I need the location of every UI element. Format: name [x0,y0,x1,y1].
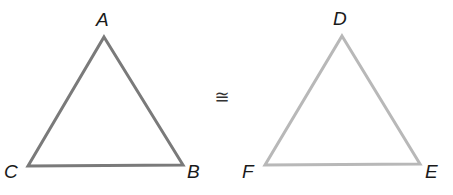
vertex-label-d: D [333,8,347,29]
triangle-abc [28,37,183,166]
vertex-label-b: B [187,161,200,182]
vertex-label-e: E [425,161,438,182]
congruent-triangles-diagram: A B C D E F ≅ [0,0,453,195]
vertex-label-c: C [4,161,18,182]
triangle-def [265,36,420,165]
vertex-label-f: F [242,161,255,182]
congruent-symbol: ≅ [214,86,229,107]
vertex-label-a: A [95,9,109,30]
